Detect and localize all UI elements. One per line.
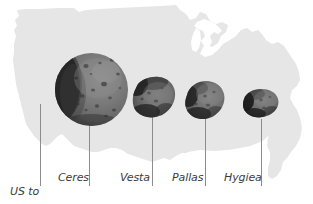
- asteroid-hygiea: [236, 88, 280, 120]
- asteroid-pallas: [178, 81, 225, 121]
- label-vesta: Vesta: [120, 172, 150, 185]
- label-us-to-scale-line1: US to: [10, 185, 39, 198]
- asteroid-bodies-layer: [0, 0, 313, 204]
- label-hygiea: Hygiea: [224, 172, 262, 185]
- pallas-surface-detail: [178, 81, 225, 121]
- hygiea-surface-detail: [236, 88, 280, 120]
- vesta-surface-detail: [124, 72, 176, 120]
- label-pallas: Pallas: [172, 172, 203, 185]
- asteroid-vesta: [124, 72, 176, 120]
- asteroid-size-comparison-infographic: US to scale Ceres Vesta Pallas Hygiea: [0, 0, 313, 204]
- label-us-to-scale: US to scale: [10, 159, 39, 204]
- label-ceres: Ceres: [58, 172, 89, 185]
- asteroid-ceres: [40, 50, 128, 142]
